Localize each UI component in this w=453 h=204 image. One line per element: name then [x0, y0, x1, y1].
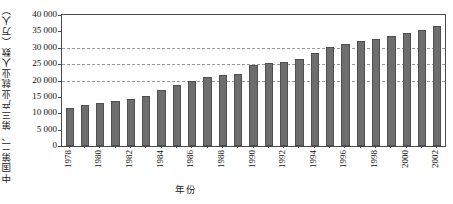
y-axis-title-text: 中国第二、第三产业就业人数（万人）	[3, 4, 13, 183]
bar	[96, 103, 104, 146]
y-axis-tick-label: 15 000	[32, 91, 57, 100]
x-axis-tick-mark	[191, 145, 192, 148]
y-axis-tick-label: 20 000	[32, 75, 57, 84]
x-axis-tick-mark	[406, 145, 407, 148]
bar	[66, 108, 74, 146]
bar	[387, 36, 395, 146]
x-axis-tick-mark	[436, 145, 437, 148]
y-axis-tick-label: 0	[53, 141, 58, 150]
x-axis-tick-mark	[314, 145, 315, 148]
x-axis: 1978198019821984198619881990199219941996…	[61, 145, 444, 204]
bar	[280, 62, 288, 146]
y-axis-tick-label: 10 000	[32, 108, 57, 117]
plot-area	[61, 14, 446, 147]
x-axis-tick-mark	[344, 145, 345, 148]
bar	[357, 41, 365, 146]
x-axis-tick-mark	[222, 145, 223, 148]
bar	[418, 30, 426, 146]
x-axis-tick-mark	[115, 145, 116, 148]
bar	[311, 53, 319, 146]
bar	[81, 105, 89, 146]
x-axis-title: 年份	[175, 182, 196, 196]
bar	[157, 90, 165, 146]
x-axis-tick-mark	[253, 145, 254, 148]
x-axis-tick-label: 1978	[64, 150, 73, 168]
x-axis-tick-label: 2000	[401, 150, 410, 168]
x-axis-tick-label: 1980	[94, 150, 103, 168]
y-axis-tick-label: 25 000	[32, 59, 57, 68]
bar	[203, 77, 211, 146]
x-axis-tick-mark	[329, 145, 330, 148]
bar	[295, 59, 303, 146]
y-axis-tick-labels: 05 00010 00015 00020 00025 00030 00035 0…	[16, 0, 60, 204]
x-axis-tick-label: 1996	[339, 150, 348, 168]
x-axis-tick-mark	[298, 145, 299, 148]
x-axis-tick-mark	[69, 145, 70, 148]
bar	[234, 74, 242, 146]
x-axis-tick-mark	[375, 145, 376, 148]
bar	[326, 47, 334, 146]
bar	[142, 96, 150, 146]
y-axis-tick-label: 5 000	[37, 124, 57, 133]
x-axis-tick-mark	[360, 145, 361, 148]
bar	[249, 65, 257, 146]
x-axis-tick-label: 1998	[370, 150, 379, 168]
x-axis-tick-mark	[84, 145, 85, 148]
bar	[219, 75, 227, 146]
bar	[372, 39, 380, 146]
bar	[265, 63, 273, 146]
x-axis-tick-mark	[207, 145, 208, 148]
bars-layer	[62, 15, 445, 146]
x-axis-tick-label: 1990	[248, 150, 257, 168]
x-axis-tick-label: 1986	[186, 150, 195, 168]
x-axis-tick-label: 1982	[125, 150, 134, 168]
bar	[341, 44, 349, 146]
bar	[127, 99, 135, 146]
x-axis-tick-mark	[283, 145, 284, 148]
x-axis-tick-mark	[99, 145, 100, 148]
x-axis-tick-mark	[268, 145, 269, 148]
bar	[433, 26, 441, 146]
x-axis-tick-mark	[161, 145, 162, 148]
y-axis-tick-label: 40 000	[32, 10, 57, 19]
x-axis-tick-label: 1992	[278, 150, 287, 168]
x-axis-tick-mark	[237, 145, 238, 148]
y-axis-tick-label: 35 000	[32, 26, 57, 35]
y-axis-title: 中国第二、第三产业就业人数（万人）	[0, 8, 16, 178]
x-axis-tick-mark	[390, 145, 391, 148]
bar	[403, 33, 411, 146]
x-axis-tick-mark	[145, 145, 146, 148]
x-axis-tick-mark	[176, 145, 177, 148]
bar	[173, 85, 181, 146]
x-axis-tick-label: 1984	[156, 150, 165, 168]
x-axis-tick-mark	[130, 145, 131, 148]
bar	[188, 81, 196, 146]
x-axis-tick-mark	[421, 145, 422, 148]
bar	[111, 101, 119, 146]
x-axis-tick-label: 1994	[309, 150, 318, 168]
x-axis-tick-label: 2002	[431, 150, 440, 168]
employment-bar-chart: 中国第二、第三产业就业人数（万人） 05 00010 00015 00020 0…	[0, 0, 453, 204]
x-axis-tick-label: 1988	[217, 150, 226, 168]
y-axis-tick-label: 30 000	[32, 42, 57, 51]
